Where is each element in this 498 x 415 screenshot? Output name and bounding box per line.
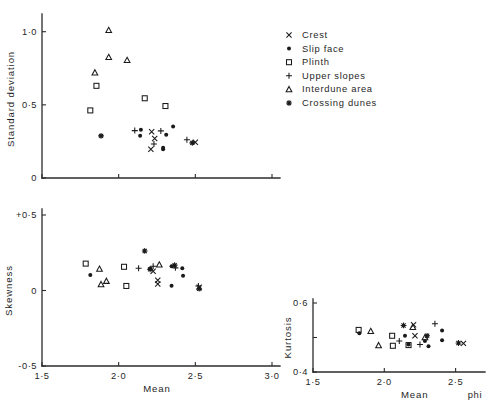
legend-item-crest[interactable]: Crest bbox=[286, 29, 328, 40]
data-point bbox=[161, 147, 165, 151]
data-point bbox=[139, 128, 143, 132]
legend-label: Plinth bbox=[302, 56, 330, 67]
y-tick-label: 0·4 bbox=[293, 367, 308, 377]
series-slip-face bbox=[357, 329, 444, 349]
y-tick-label: 0·5 bbox=[22, 100, 37, 110]
y-tick-label: +0·5 bbox=[16, 210, 37, 220]
legend-marker bbox=[286, 73, 292, 79]
x-tick-label: 2·5 bbox=[188, 371, 203, 381]
data-point bbox=[147, 266, 153, 272]
marker-interdune-area bbox=[97, 266, 103, 271]
data-point bbox=[152, 136, 157, 141]
marker-interdune-area bbox=[286, 86, 292, 91]
marker-crest bbox=[152, 136, 157, 141]
data-point bbox=[163, 104, 168, 109]
marker-plinth bbox=[390, 333, 395, 338]
data-point bbox=[142, 96, 147, 101]
marker-crossing-dunes bbox=[172, 262, 178, 268]
data-point bbox=[151, 141, 157, 147]
data-point bbox=[124, 283, 129, 288]
marker-crossing-dunes bbox=[147, 266, 153, 272]
legend-marker bbox=[287, 47, 291, 51]
marker-crossing-dunes bbox=[424, 333, 430, 339]
data-point bbox=[184, 137, 190, 143]
x-axis-title: Mean bbox=[401, 389, 429, 400]
legend-marker bbox=[286, 86, 292, 91]
legend-item-plinth[interactable]: Plinth bbox=[287, 56, 330, 67]
data-point bbox=[155, 281, 160, 286]
marker-crest bbox=[149, 129, 154, 134]
marker-interdune-area bbox=[368, 328, 374, 333]
legend-item-upper-slopes[interactable]: Upper slopes bbox=[286, 70, 366, 81]
data-point bbox=[189, 140, 195, 146]
marker-slip-face bbox=[287, 47, 291, 51]
marker-interdune-area bbox=[410, 324, 416, 329]
x-tick-label: 2·0 bbox=[377, 377, 392, 387]
plot-standard-deviation-vs-mean: 00·51·0Standard deviation bbox=[5, 14, 280, 183]
marker-upper-slopes bbox=[396, 338, 402, 344]
y-tick-label: 1·0 bbox=[22, 27, 37, 37]
marker-upper-slopes bbox=[132, 128, 138, 134]
series-crossing-dunes bbox=[98, 133, 195, 146]
marker-slip-face bbox=[440, 329, 444, 333]
data-point bbox=[376, 342, 382, 347]
marker-crossing-dunes bbox=[286, 100, 292, 106]
marker-slip-face bbox=[139, 128, 143, 132]
legend-marker bbox=[286, 100, 292, 106]
legend-item-interdune-area[interactable]: Interdune area bbox=[286, 83, 373, 94]
marker-upper-slopes bbox=[184, 137, 190, 143]
legend-label: Interdune area bbox=[302, 83, 373, 94]
y-tick-label: -0·5 bbox=[18, 361, 37, 371]
data-point bbox=[368, 328, 374, 333]
plot-skewness-vs-mean: 1·52·02·53·0-0·50+0·5SkewnessMean bbox=[3, 209, 280, 394]
data-point bbox=[88, 273, 92, 277]
data-point bbox=[390, 343, 395, 348]
legend-label: Crossing dunes bbox=[302, 97, 377, 108]
marker-slip-face bbox=[161, 147, 165, 151]
x-tick-label: 2·5 bbox=[448, 377, 463, 387]
marker-upper-slopes bbox=[151, 141, 157, 147]
marker-crest bbox=[148, 147, 153, 152]
data-point bbox=[410, 324, 416, 329]
marker-interdune-area bbox=[98, 281, 104, 286]
series-plinth bbox=[356, 327, 411, 348]
marker-crossing-dunes bbox=[456, 340, 462, 346]
scatter-plot-figure: 00·51·0Standard deviation1·52·02·53·0-0·… bbox=[0, 0, 498, 415]
data-point bbox=[196, 286, 202, 292]
legend-item-crossing-dunes[interactable]: Crossing dunes bbox=[286, 97, 377, 108]
marker-crossing-dunes bbox=[142, 248, 148, 254]
marker-plinth bbox=[122, 264, 127, 269]
legend-marker bbox=[286, 32, 291, 37]
legend-item-slip-face[interactable]: Slip face bbox=[287, 43, 344, 54]
marker-slip-face bbox=[181, 274, 185, 278]
data-point bbox=[148, 147, 153, 152]
marker-plinth bbox=[83, 261, 88, 266]
data-point bbox=[390, 333, 395, 338]
marker-slip-face bbox=[427, 344, 431, 348]
data-point bbox=[88, 108, 93, 113]
data-point bbox=[424, 333, 430, 339]
plot-kurtosis-vs-mean: 1·52·02·50·40·6KurtosisMeanphi bbox=[282, 298, 485, 400]
data-point bbox=[180, 266, 184, 270]
data-point bbox=[456, 340, 462, 346]
legend-marker bbox=[287, 60, 292, 65]
marker-slip-face bbox=[164, 133, 168, 137]
data-point bbox=[98, 281, 104, 286]
data-point bbox=[106, 54, 112, 59]
data-point bbox=[417, 341, 423, 347]
data-point bbox=[164, 133, 168, 137]
marker-upper-slopes bbox=[136, 265, 142, 271]
marker-interdune-area bbox=[156, 262, 162, 267]
marker-plinth bbox=[163, 104, 168, 109]
marker-interdune-area bbox=[376, 342, 382, 347]
marker-slip-face bbox=[88, 273, 92, 277]
data-point bbox=[83, 261, 88, 266]
marker-slip-face bbox=[170, 284, 174, 288]
y-tick-label: 0 bbox=[31, 173, 37, 183]
data-point bbox=[132, 128, 138, 134]
marker-interdune-area bbox=[106, 27, 112, 32]
marker-upper-slopes bbox=[417, 341, 423, 347]
data-point bbox=[104, 278, 110, 283]
marker-crossing-dunes bbox=[401, 323, 407, 329]
marker-plinth bbox=[142, 96, 147, 101]
